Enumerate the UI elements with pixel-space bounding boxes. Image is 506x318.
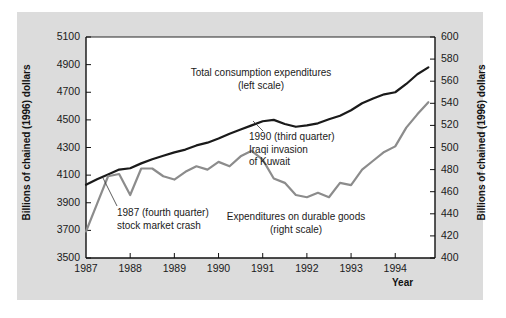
annotation-total-consumption: Total consumption expenditures (left sca… [176, 67, 346, 92]
annotation-1990-invasion: 1990 (third quarter) Iraqi invasion of K… [249, 131, 335, 169]
annotation-leader-line [103, 178, 117, 206]
annotation-leader-lines [103, 121, 263, 206]
annotation-1987-crash: 1987 (fourth quarter) stock market crash [117, 207, 209, 232]
figure-container: Billions of chained (1996) dollars Billi… [0, 0, 506, 318]
annotation-durable-goods: Expenditures on durable goods (right sca… [216, 211, 376, 236]
